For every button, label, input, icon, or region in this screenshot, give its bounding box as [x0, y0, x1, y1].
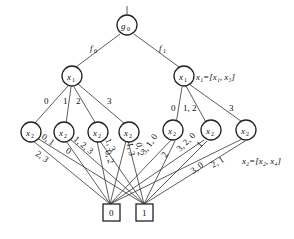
svg-text:x: x — [58, 128, 63, 138]
x1-node-left: x 1 — [62, 66, 82, 86]
edge-f0 — [76, 34, 120, 67]
branch-label-f0: f 0 — [90, 43, 97, 54]
decision-diagram: g 0 f 0 f 1 x 1 x 1 x₁=[x₁, x₃] 0 1 2 3 … — [0, 0, 294, 239]
x1-node-right: x 1 — [174, 66, 194, 86]
root-node: g 0 — [117, 15, 137, 35]
svg-text:0: 0 — [94, 48, 97, 54]
edge-f1 — [134, 34, 179, 67]
edge-label: 1 — [63, 96, 68, 106]
svg-text:0: 0 — [109, 208, 114, 218]
svg-text:2: 2 — [246, 131, 249, 137]
edge — [176, 87, 182, 124]
svg-text:2: 2 — [129, 133, 132, 139]
edge-label: 0 — [44, 96, 49, 106]
svg-text:2: 2 — [211, 131, 214, 137]
x2-annotation: x₂=[x₂, x₄] — [241, 156, 281, 166]
svg-text:2: 2 — [64, 133, 67, 139]
svg-text:x: x — [205, 126, 210, 136]
edge-label: 2, 1 — [209, 154, 226, 169]
x2-node-1: x 2 — [21, 122, 41, 142]
edge-label: 0 — [171, 103, 176, 113]
svg-text:1: 1 — [142, 208, 147, 218]
svg-text:g: g — [121, 21, 126, 31]
x1-annotation: x₁=[x₁, x₃] — [195, 72, 235, 82]
edge-label: 3, 0 — [188, 159, 205, 175]
branch-label-f1: f 1 — [159, 43, 166, 54]
svg-text:2: 2 — [31, 133, 34, 139]
edge-label: 0, 2 — [103, 149, 116, 165]
x2-node-5: x 2 — [163, 120, 183, 140]
edge — [78, 84, 125, 124]
svg-text:1: 1 — [72, 77, 75, 83]
svg-text:0: 0 — [127, 26, 130, 32]
edge-label: 2, 3 — [34, 148, 51, 164]
edge-label: 0 — [64, 145, 74, 156]
svg-text:x: x — [92, 128, 97, 138]
x2-node-7: x 2 — [236, 120, 256, 140]
edge-label: 3 — [229, 103, 234, 113]
x2-node-2: x 2 — [54, 122, 74, 142]
edge-label: 2 — [76, 96, 81, 106]
x2-node-4: x 2 — [119, 122, 139, 142]
svg-text:x: x — [240, 126, 245, 136]
terminal-1: 1 — [136, 204, 153, 221]
svg-text:2: 2 — [98, 133, 101, 139]
svg-text:x: x — [66, 72, 71, 82]
x2-node-6: x 2 — [201, 120, 221, 140]
svg-text:2: 2 — [173, 131, 176, 137]
svg-text:x: x — [167, 126, 172, 136]
edge-label: 2 — [159, 150, 170, 159]
edge-label: 3 — [107, 96, 112, 106]
edge-label: 1, 2 — [183, 103, 197, 113]
terminal-0: 0 — [103, 204, 120, 221]
svg-text:1: 1 — [163, 48, 166, 54]
svg-text:x: x — [178, 72, 183, 82]
svg-text:x: x — [123, 128, 128, 138]
svg-text:1: 1 — [184, 77, 187, 83]
svg-text:x: x — [25, 128, 30, 138]
edge — [189, 84, 245, 124]
